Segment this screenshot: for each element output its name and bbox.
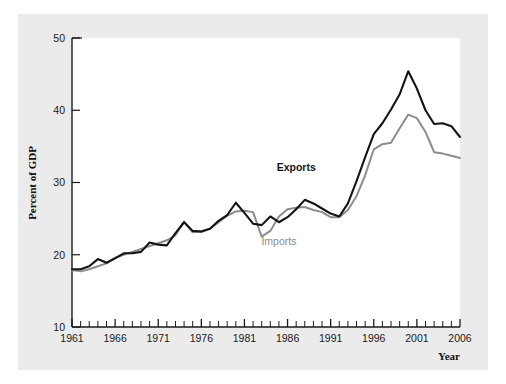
x-axis-tick-label: 1961	[60, 332, 84, 344]
y-axis-tick-label: 50	[53, 32, 65, 44]
chart-svg-container: 1020304050 19611966197119761981198619911…	[0, 0, 506, 384]
series-label-imports: Imports	[261, 235, 296, 247]
line-chart: 1020304050 19611966197119761981198619911…	[0, 0, 506, 384]
figure-canvas: 1020304050 19611966197119761981198619911…	[0, 0, 506, 384]
x-axis-tick-label: 1991	[319, 332, 343, 344]
x-axis-ticks	[72, 319, 460, 327]
x-axis-tick-label: 1986	[276, 332, 300, 344]
series-inline-labels: ExportsImports	[261, 161, 315, 247]
y-axis-tick-label: 10	[53, 321, 65, 333]
x-axis-tick-label: 2001	[405, 332, 429, 344]
y-axis-tick-label: 30	[53, 176, 65, 188]
y-axis-ticks	[72, 38, 80, 327]
x-axis-tick-label: 1976	[190, 332, 214, 344]
y-axis-tick-label: 40	[53, 104, 65, 116]
y-axis-tick-label: 20	[53, 249, 65, 261]
x-axis-tick-label: 1981	[233, 332, 257, 344]
y-axis-title: Percent of GDP	[26, 146, 38, 220]
x-axis-tick-labels: 1961196619711976198119861991199620012006	[60, 332, 472, 344]
series-label-exports: Exports	[277, 161, 316, 173]
x-axis-title: Year	[438, 350, 460, 362]
y-axis-tick-labels: 1020304050	[53, 32, 65, 333]
x-axis-tick-label: 2006	[448, 332, 472, 344]
x-axis-tick-label: 1971	[147, 332, 171, 344]
series-line-imports	[72, 115, 460, 272]
x-axis-tick-label: 1996	[362, 332, 386, 344]
x-axis-tick-label: 1966	[103, 332, 127, 344]
